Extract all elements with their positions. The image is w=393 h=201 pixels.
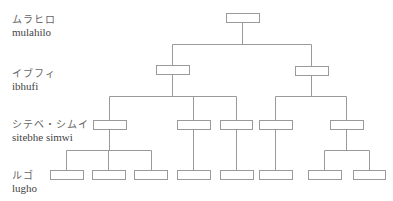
node-lugho [51, 171, 84, 180]
node-ibhufi [296, 67, 329, 76]
node-sitebhe [94, 121, 127, 130]
node-root [227, 14, 260, 23]
node-lugho [309, 171, 342, 180]
node-sitebhe [178, 121, 211, 130]
node-lugho [178, 171, 211, 180]
tree-diagram [0, 0, 393, 201]
node-sitebhe [331, 121, 364, 130]
tree-edges [67, 22, 370, 170]
node-lugho [260, 171, 293, 180]
node-lugho [135, 171, 168, 180]
node-sitebhe [260, 121, 293, 130]
node-ibhufi [157, 66, 190, 75]
node-lugho [93, 171, 126, 180]
node-lugho [221, 171, 254, 180]
node-sitebhe [221, 121, 253, 130]
node-lugho [354, 171, 386, 180]
